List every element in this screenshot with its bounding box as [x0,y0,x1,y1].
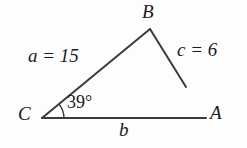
angle-arc-C [59,104,64,118]
angle-label-C: 39° [67,93,92,111]
side-label-b: b [119,120,129,139]
vertex-label-A: A [210,103,222,122]
vertex-label-B: B [142,2,154,21]
triangle-diagram: B C A a = 15 c = 6 b 39° [0,0,247,148]
vertex-label-C: C [18,104,31,123]
segment-side-a [42,29,150,118]
side-label-a: a = 15 [28,46,79,65]
side-label-c: c = 6 [177,40,217,59]
